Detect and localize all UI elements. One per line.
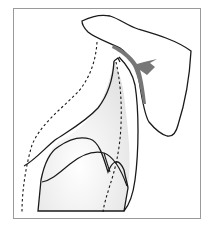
shoulder-diagram — [0, 0, 205, 227]
humerus-top-cap — [114, 58, 120, 62]
arm-shaded-region — [38, 61, 130, 211]
